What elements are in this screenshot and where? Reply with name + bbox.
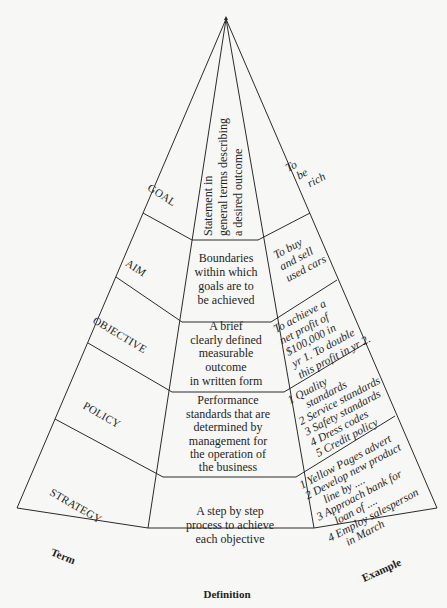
definition-aim-line-4: be achieved [198, 293, 255, 307]
definition-objective-line-2: clearly defined [190, 333, 262, 347]
definition-objective-line-3: measurable [199, 346, 254, 360]
definition-policy-line-6: the business [199, 460, 258, 474]
definition-objective-line-4: outcome [205, 360, 246, 374]
definition-goal-line-3: a desired outcome [231, 149, 245, 236]
label-definition: Definition [203, 588, 250, 600]
term-policy: POLICY [81, 399, 122, 430]
definition-column: Statement in general terms describing a … [186, 118, 274, 546]
definition-goal-line-1: Statement in [201, 176, 215, 236]
example-column: To be rich To buy and sell used cars To … [270, 149, 431, 555]
definition-policy-line-4: management for [189, 434, 267, 448]
label-example: Example [360, 556, 403, 584]
term-strategy: STRATEGY [48, 486, 104, 525]
example-goal-line-3: rich [305, 170, 327, 189]
definition-objective-line-1: A brief [209, 319, 243, 333]
definition-aim-line-3: goals are to [198, 279, 253, 293]
definition-policy-line-3: determined by [194, 420, 263, 434]
column-labels: Term Definition Example [49, 546, 403, 600]
label-term: Term [49, 546, 77, 567]
term-aim: AIM [124, 257, 149, 279]
term-column: GOAL AIM OBJECTIVE POLICY STRATEGY [48, 181, 179, 525]
definition-strategy-line-3: each objective [196, 532, 265, 546]
definition-goal-line-2: general terms describing [216, 118, 230, 236]
pyramid-diagram: GOAL AIM OBJECTIVE POLICY STRATEGY State… [0, 0, 447, 608]
definition-aim-line-1: Boundaries [199, 251, 254, 265]
definition-aim-line-2: within which [195, 265, 258, 279]
definition-policy-line-5: the operation of [190, 447, 266, 461]
definition-strategy-line-1: A step by step [196, 504, 264, 518]
definition-strategy-line-2: process to achieve [186, 518, 274, 532]
definition-objective-line-5: in written form [190, 374, 263, 388]
definition-policy-line-1: Performance [197, 393, 258, 407]
definition-policy-line-2: standards that are [186, 407, 270, 421]
term-objective: OBJECTIVE [91, 314, 149, 355]
